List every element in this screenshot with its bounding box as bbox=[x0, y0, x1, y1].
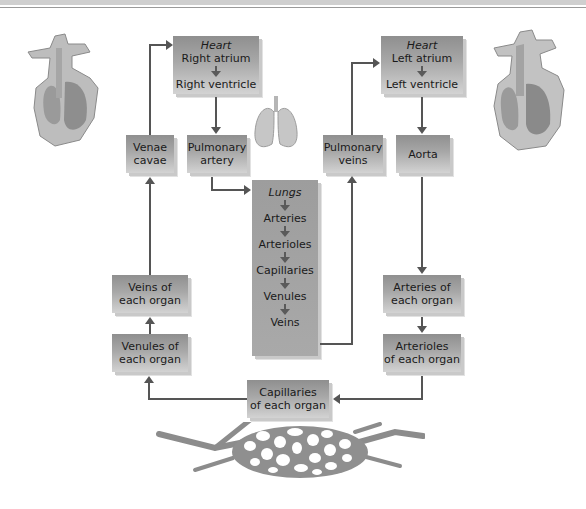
left-ventricle-label: Left ventricle bbox=[386, 78, 458, 91]
connector bbox=[148, 383, 150, 400]
pulmonary-artery-line2: artery bbox=[200, 154, 233, 167]
down-arrow-icon bbox=[280, 304, 290, 315]
pulmonary-artery-line1: Pulmonary bbox=[188, 141, 247, 154]
veins-organ-line1: Veins of bbox=[128, 281, 171, 294]
venae-cavae-line2: cavae bbox=[134, 154, 167, 167]
venules-organ-line2: each organ bbox=[119, 353, 181, 366]
arrow-down-icon bbox=[417, 326, 427, 333]
left-atrium-label: Left atrium bbox=[392, 52, 453, 65]
connector bbox=[340, 398, 423, 400]
connector bbox=[149, 324, 151, 334]
down-arrow-icon bbox=[280, 252, 290, 263]
arrow-left-icon bbox=[333, 394, 340, 404]
heart-right-header: Heart bbox=[201, 39, 232, 52]
right-ventricle-label: Right ventricle bbox=[176, 78, 256, 91]
veins-organ-line2: each organ bbox=[119, 294, 181, 307]
arrow-up-icon bbox=[347, 176, 357, 183]
down-arrow-icon bbox=[211, 66, 221, 77]
venae-cavae-box: Venae cavae bbox=[126, 135, 174, 173]
arrow-down-icon bbox=[417, 267, 427, 274]
down-arrow-icon bbox=[417, 66, 427, 77]
arrow-right-icon bbox=[373, 58, 380, 68]
lungs-veins: Veins bbox=[270, 316, 299, 329]
lungs-icon bbox=[252, 96, 300, 152]
heart-left-side-icon bbox=[480, 26, 575, 154]
venae-cavae-line1: Venae bbox=[133, 141, 167, 154]
connector bbox=[148, 398, 247, 400]
connector bbox=[320, 343, 352, 345]
capillaries-organ-line1: Capillaries bbox=[259, 386, 316, 399]
heart-left-box: Heart Left atrium Left ventricle bbox=[381, 36, 463, 94]
caption-strip bbox=[0, 0, 586, 5]
capillaries-organ-line2: of each organ bbox=[250, 399, 326, 412]
venules-organ-box: Venules of each organ bbox=[112, 334, 188, 372]
lungs-venules: Venules bbox=[264, 290, 307, 303]
lungs-box: Lungs Arteries Arterioles Capillaries Ve… bbox=[252, 180, 318, 356]
arteries-organ-box: Arteries of each organ bbox=[383, 275, 461, 313]
arrow-down-icon bbox=[417, 127, 427, 134]
connector bbox=[215, 97, 217, 127]
divider bbox=[0, 7, 586, 8]
arterioles-organ-line2: of each organ bbox=[384, 353, 460, 366]
pulmonary-veins-box: Pulmonary veins bbox=[323, 135, 383, 173]
down-arrow-icon bbox=[280, 200, 290, 211]
arrow-up-icon bbox=[144, 376, 154, 383]
aorta-label: Aorta bbox=[408, 148, 438, 161]
arrow-up-icon bbox=[145, 177, 155, 184]
right-atrium-label: Right atrium bbox=[182, 52, 251, 65]
veins-organ-box: Veins of each organ bbox=[112, 275, 188, 313]
arrow-right-icon bbox=[166, 40, 173, 50]
heart-left-header: Heart bbox=[407, 39, 438, 52]
venules-organ-line1: Venules of bbox=[121, 340, 178, 353]
connector bbox=[421, 376, 423, 400]
connector bbox=[421, 177, 423, 267]
pulmonary-artery-box: Pulmonary artery bbox=[187, 135, 247, 173]
down-arrow-icon bbox=[280, 278, 290, 289]
arrow-down-icon bbox=[211, 127, 221, 134]
arrow-up-icon bbox=[145, 317, 155, 324]
connector bbox=[351, 62, 353, 135]
capillaries-organ-box: Capillaries of each organ bbox=[247, 380, 329, 418]
lungs-capillaries: Capillaries bbox=[256, 264, 313, 277]
lungs-header: Lungs bbox=[269, 186, 302, 199]
arteries-organ-line2: each organ bbox=[391, 294, 453, 307]
connector bbox=[149, 44, 151, 135]
connector bbox=[149, 44, 167, 46]
arrow-right-icon bbox=[244, 185, 251, 195]
lungs-arteries: Arteries bbox=[263, 212, 306, 225]
arteries-organ-line1: Arteries of bbox=[393, 281, 450, 294]
pulmonary-veins-line2: veins bbox=[338, 154, 367, 167]
arterioles-organ-line1: Arterioles bbox=[396, 340, 449, 353]
connector bbox=[211, 189, 245, 191]
connector bbox=[351, 183, 353, 345]
capillary-bed-icon bbox=[155, 422, 425, 488]
down-arrow-icon bbox=[280, 226, 290, 237]
heart-right-box: Heart Right atrium Right ventricle bbox=[173, 36, 259, 94]
connector bbox=[421, 97, 423, 127]
lungs-arterioles: Arterioles bbox=[259, 238, 312, 251]
heart-right-side-icon bbox=[10, 28, 105, 150]
connector bbox=[351, 62, 373, 64]
aorta-box: Aorta bbox=[396, 135, 450, 173]
arterioles-organ-box: Arterioles of each organ bbox=[383, 334, 461, 372]
pulmonary-veins-line1: Pulmonary bbox=[324, 141, 383, 154]
connector bbox=[149, 184, 151, 275]
